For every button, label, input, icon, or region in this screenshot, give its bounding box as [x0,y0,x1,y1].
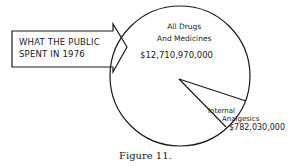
big-slice-value: $12,710,970,000 [140,50,213,60]
arrow-line-2: SPENT IN 1976 [19,48,100,60]
figure-caption: Figure 11. [119,150,172,161]
arrow-annotation: WHAT THE PUBLIC SPENT IN 1976 [19,36,100,60]
big-slice-line-2: And Medicines [157,33,211,45]
big-slice-label: All Drugs And Medicines [157,21,211,45]
pie-chart-graphic [0,0,303,166]
arrow-line-1: WHAT THE PUBLIC [19,36,100,48]
big-slice-line-1: All Drugs [157,21,211,33]
small-slice-line-2: Analgesics [222,115,259,123]
small-slice-value: $782,030,000 [229,123,285,132]
